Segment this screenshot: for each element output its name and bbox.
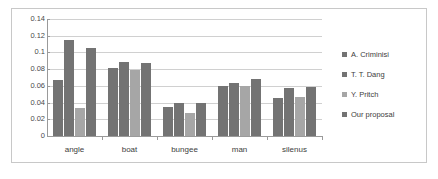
y-tick-label: 0.12 — [13, 32, 45, 40]
legend-swatch-icon — [342, 92, 347, 97]
y-tick-mark — [47, 69, 50, 70]
legend-label: T. T. Dang — [351, 70, 385, 79]
bar-boat-series-2 — [119, 62, 129, 136]
legend-item-2[interactable]: T. T. Dang — [342, 67, 432, 82]
bar-group-boat — [102, 19, 157, 136]
bar-angle-series-3 — [75, 108, 85, 136]
legend-label: Our proposal — [351, 110, 394, 119]
bar-angle-series-4 — [86, 48, 96, 136]
bar-man-series-1 — [218, 86, 228, 136]
bar-bungee-series-4 — [196, 103, 206, 136]
legend-swatch-icon — [342, 112, 347, 117]
y-axis-tick-labels: 00.020.040.060.080.10.120.14 — [12, 19, 45, 136]
bar-silenus-series-3 — [295, 97, 305, 136]
bar-man-series-3 — [240, 86, 250, 136]
bar-angle-series-1 — [53, 80, 63, 136]
y-tick-mark — [47, 103, 50, 104]
x-tick-label-angle: angle — [45, 145, 105, 154]
legend-item-1[interactable]: A. Criminisi — [342, 47, 432, 62]
x-tick-label-man: man — [210, 145, 270, 154]
plot-area: angleboatbungeemansilenus — [47, 19, 322, 136]
legend-label: A. Criminisi — [351, 50, 389, 59]
y-tick-mark — [47, 86, 50, 87]
bar-bungee-series-2 — [174, 103, 184, 136]
y-tick-label: 0.14 — [13, 15, 45, 23]
bar-silenus-series-4 — [306, 87, 316, 136]
bar-bungee-series-1 — [163, 107, 173, 136]
legend-item-3[interactable]: Y. Pritch — [342, 87, 432, 102]
bar-silenus-series-1 — [273, 98, 283, 136]
legend-swatch-icon — [342, 72, 347, 77]
x-tick-label-boat: boat — [100, 145, 160, 154]
bar-man-series-2 — [229, 83, 239, 136]
bar-group-bungee — [157, 19, 212, 136]
bar-bungee-series-3 — [185, 113, 195, 136]
bar-group-silenus — [267, 19, 322, 136]
x-axis-tick-mark — [212, 136, 213, 140]
y-tick-mark — [47, 52, 50, 53]
x-axis-tick-mark — [157, 136, 158, 140]
x-axis-tick-mark — [322, 136, 323, 140]
bar-boat-series-4 — [141, 63, 151, 136]
x-axis-line — [47, 136, 322, 137]
legend-label: Y. Pritch — [351, 90, 378, 99]
x-axis-tick-mark — [102, 136, 103, 140]
chart-container: 00.020.040.060.080.10.120.14 angleboatbu… — [11, 8, 427, 163]
x-tick-label-bungee: bungee — [155, 145, 215, 154]
y-tick-label: 0.02 — [13, 115, 45, 123]
y-tick-mark — [47, 36, 50, 37]
y-tick-label: 0.1 — [13, 48, 45, 56]
bar-group-angle — [47, 19, 102, 136]
legend-item-4[interactable]: Our proposal — [342, 107, 432, 122]
y-tick-mark — [47, 136, 50, 137]
bar-angle-series-2 — [64, 40, 74, 136]
y-tick-label: 0.06 — [13, 82, 45, 90]
bar-silenus-series-2 — [284, 88, 294, 136]
legend-swatch-icon — [342, 52, 347, 57]
bar-boat-series-3 — [130, 70, 140, 136]
bar-man-series-4 — [251, 79, 261, 136]
x-tick-label-silenus: silenus — [265, 145, 325, 154]
y-tick-label: 0.08 — [13, 65, 45, 73]
y-tick-mark — [47, 119, 50, 120]
y-tick-mark — [47, 19, 50, 20]
x-axis-tick-mark — [267, 136, 268, 140]
y-tick-label: 0 — [13, 132, 45, 140]
bar-boat-series-1 — [108, 68, 118, 136]
bar-group-man — [212, 19, 267, 136]
chart-legend: A. CriminisiT. T. DangY. PritchOur propo… — [342, 47, 432, 127]
y-tick-label: 0.04 — [13, 99, 45, 107]
